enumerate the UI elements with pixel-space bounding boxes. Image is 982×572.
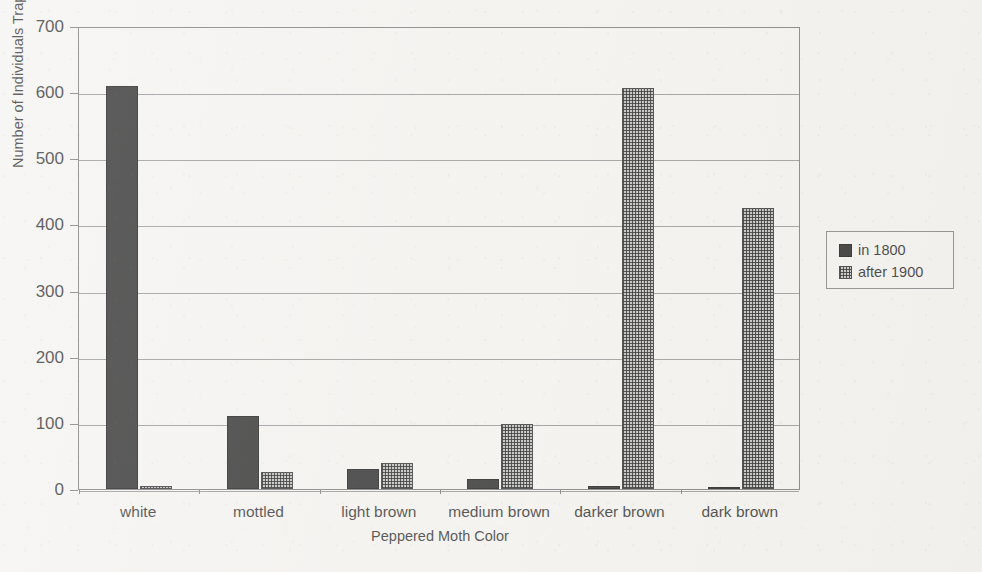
x-axis-category-label: darker brown <box>559 503 679 521</box>
y-axis-tick-label: 0 <box>0 481 64 498</box>
y-axis-tick-mark <box>70 159 78 160</box>
y-axis-tick-mark <box>70 490 78 491</box>
gridline <box>79 491 799 492</box>
bar-in-1800-white <box>106 86 138 489</box>
x-axis-category-label: dark brown <box>680 503 800 521</box>
bar-after-1900-darker-brown <box>622 88 654 489</box>
bar-in-1800-dark-brown <box>708 487 740 489</box>
bar-chart: Number of Individuals Trapped 0100200300… <box>0 0 982 572</box>
solid-black-swatch-icon <box>839 244 852 257</box>
x-axis-category-label: mottled <box>198 503 318 521</box>
bar-in-1800-medium-brown <box>467 479 499 489</box>
y-axis-tick-mark <box>70 424 78 425</box>
bar-in-1800-mottled <box>227 416 259 489</box>
bar-after-1900-medium-brown <box>501 424 533 489</box>
bar-after-1900-mottled <box>261 472 293 489</box>
y-axis-tick-mark <box>70 27 78 28</box>
y-axis-tick-label: 200 <box>0 349 64 366</box>
plot-area <box>78 27 800 490</box>
x-axis-title: Peppered Moth Color <box>0 528 880 544</box>
y-axis-tick-mark <box>70 225 78 226</box>
x-axis-tick-mark <box>440 489 441 494</box>
x-axis-tick-mark <box>79 489 80 494</box>
x-axis-category-label: white <box>78 503 198 521</box>
bar-after-1900-dark-brown <box>742 208 774 489</box>
y-axis-tick-label: 700 <box>0 18 64 35</box>
legend-item: after 1900 <box>839 261 953 283</box>
y-axis-tick-label: 100 <box>0 415 64 432</box>
gridline <box>79 94 799 95</box>
bar-after-1900-white <box>140 486 172 489</box>
chart-legend: in 1800 after 1900 <box>826 231 954 289</box>
x-axis-category-label: medium brown <box>439 503 559 521</box>
gridline <box>79 226 799 227</box>
x-axis-tick-mark <box>560 489 561 494</box>
y-axis-tick-mark <box>70 93 78 94</box>
y-axis-tick-label: 600 <box>0 84 64 101</box>
legend-item-label: after 1900 <box>858 264 923 280</box>
gridline <box>79 425 799 426</box>
bar-in-1800-light-brown <box>347 469 379 489</box>
gridline <box>79 160 799 161</box>
bar-after-1900-light-brown <box>381 463 413 489</box>
y-axis-tick-label: 500 <box>0 150 64 167</box>
bar-in-1800-darker-brown <box>588 486 620 489</box>
y-axis-tick-label: 300 <box>0 283 64 300</box>
legend-item-label: in 1800 <box>858 242 906 258</box>
y-axis-tick-mark <box>70 292 78 293</box>
dotted-gray-swatch-icon <box>839 266 852 279</box>
x-axis-tick-mark <box>320 489 321 494</box>
legend-item: in 1800 <box>839 239 953 261</box>
x-axis-tick-mark <box>199 489 200 494</box>
y-axis-tick-label: 400 <box>0 216 64 233</box>
x-axis-tick-mark <box>681 489 682 494</box>
y-axis-tick-mark <box>70 358 78 359</box>
gridline <box>79 359 799 360</box>
gridline <box>79 293 799 294</box>
x-axis-category-label: light brown <box>319 503 439 521</box>
